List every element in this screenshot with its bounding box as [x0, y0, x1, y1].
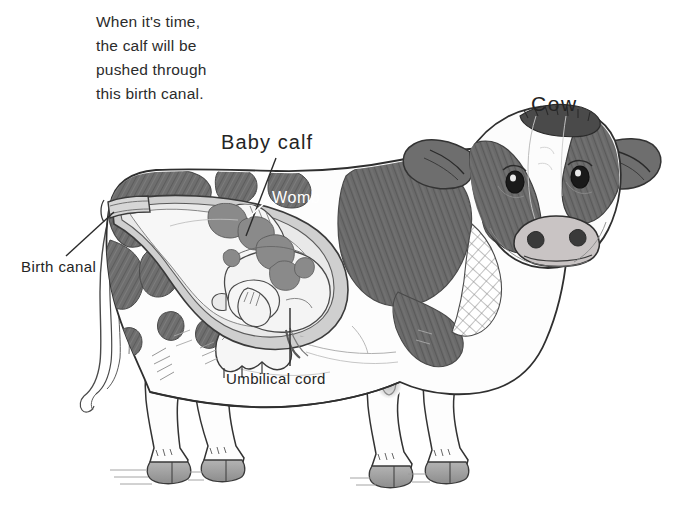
label-womb: Womb: [272, 189, 320, 207]
label-cow: Cow: [531, 92, 578, 116]
nostril-right: [569, 230, 586, 247]
illustration-page: When it's time, the calf will be pushed …: [0, 0, 683, 506]
muzzle: [514, 216, 599, 267]
label-umbilical-cord: Umbilical cord: [226, 370, 326, 387]
caption-text: When it's time, the calf will be pushed …: [96, 10, 286, 106]
eye-left: [506, 171, 524, 193]
label-baby-calf: Baby calf: [221, 131, 313, 154]
eye-right: [571, 166, 589, 188]
label-birth-canal: Birth canal: [21, 258, 96, 275]
nostril-left: [527, 232, 544, 249]
